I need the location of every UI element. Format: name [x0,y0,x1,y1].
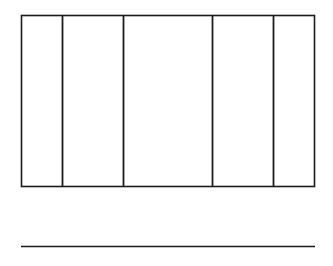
section-diagram-svg [0,0,333,266]
outer-rectangle [22,16,315,187]
diagram-root [0,0,333,266]
